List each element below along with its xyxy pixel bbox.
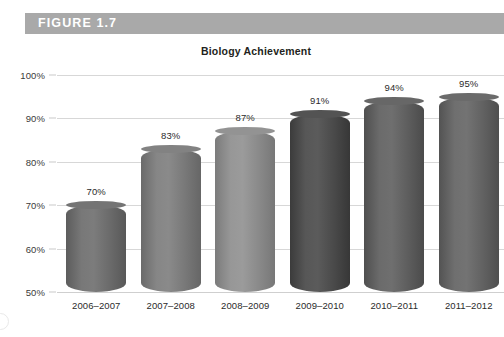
y-axis-label: 70% bbox=[1, 200, 45, 211]
figure-container: FIGURE 1.7 Biology Achievement 100%90%80… bbox=[0, 0, 504, 337]
bar-top-cap bbox=[141, 145, 201, 153]
bar-top-cap bbox=[439, 93, 499, 101]
bar-body bbox=[364, 101, 424, 292]
y-axis-label: 50% bbox=[1, 287, 45, 298]
x-axis-category-label: 2009–2010 bbox=[283, 300, 357, 311]
page-corner-artifact bbox=[0, 313, 9, 330]
figure-number-label: FIGURE 1.7 bbox=[38, 15, 117, 32]
x-axis-category-label: 2011–2012 bbox=[432, 300, 504, 311]
bar-body bbox=[215, 131, 275, 292]
bar-body bbox=[439, 97, 499, 292]
chart-title: Biology Achievement bbox=[0, 45, 504, 57]
x-axis-category-label: 2010–2011 bbox=[357, 300, 431, 311]
chart-plot-area: 100%90%80%70%60%50%70%83%87%91%94%95% bbox=[57, 75, 504, 292]
bar-value-label: 91% bbox=[290, 95, 350, 106]
bar bbox=[290, 114, 350, 292]
bar bbox=[141, 149, 201, 292]
bar-body bbox=[141, 149, 201, 292]
bar-value-label: 87% bbox=[215, 112, 275, 123]
bar bbox=[364, 101, 424, 292]
y-axis-tick bbox=[49, 248, 56, 249]
y-axis-tick bbox=[49, 118, 56, 119]
y-axis-tick bbox=[49, 205, 56, 206]
y-axis-label: 100% bbox=[1, 70, 45, 81]
y-axis-label: 80% bbox=[1, 156, 45, 167]
gridline bbox=[57, 118, 504, 119]
chart-title-text: Biology Achievement bbox=[201, 45, 311, 57]
bar-body bbox=[290, 114, 350, 292]
y-axis-tick bbox=[49, 75, 56, 76]
bar-value-label: 94% bbox=[364, 82, 424, 93]
y-axis-label: 90% bbox=[1, 113, 45, 124]
gridline bbox=[57, 75, 504, 76]
bar bbox=[439, 97, 499, 292]
bar bbox=[215, 131, 275, 292]
bar-value-label: 83% bbox=[141, 130, 201, 141]
bar-value-label: 95% bbox=[439, 78, 499, 89]
gridline bbox=[57, 292, 504, 293]
y-axis-tick bbox=[49, 161, 56, 162]
x-axis-category-label: 2006–2007 bbox=[59, 300, 133, 311]
bar bbox=[66, 205, 126, 292]
gridline bbox=[57, 162, 504, 163]
bar-body bbox=[66, 205, 126, 292]
bar-top-cap bbox=[290, 110, 350, 118]
x-axis-category-label: 2008–2009 bbox=[208, 300, 282, 311]
x-axis-category-label: 2007–2008 bbox=[134, 300, 208, 311]
y-axis-label: 60% bbox=[1, 243, 45, 254]
y-axis-tick bbox=[49, 292, 56, 293]
bar-value-label: 70% bbox=[66, 186, 126, 197]
